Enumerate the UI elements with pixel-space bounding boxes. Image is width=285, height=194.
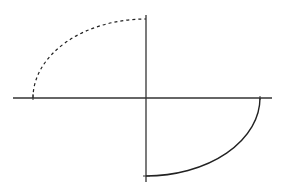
lower-right-solid-arc: [146, 98, 260, 176]
upper-left-dashed-arc: [33, 19, 146, 98]
quadrant-arcs-diagram: [0, 0, 285, 194]
